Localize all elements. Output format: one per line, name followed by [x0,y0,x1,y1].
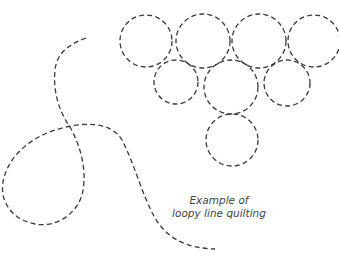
diagram-caption: Example of loopy line quilting [160,194,278,220]
circle-row2-1 [154,60,198,104]
caption-line-1: Example of [160,194,278,207]
circle-row2-2 [204,60,258,114]
circle-row3-1 [206,114,258,166]
circle-pattern [120,14,339,166]
circle-row1-2 [176,14,230,68]
circle-row1-4 [288,15,339,67]
circle-row2-3 [264,60,310,106]
circle-row1-1 [120,15,172,67]
circle-row1-3 [232,14,286,68]
caption-line-2: loopy line quilting [160,207,278,220]
